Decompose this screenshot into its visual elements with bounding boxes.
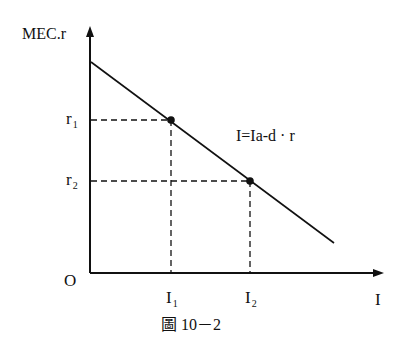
- tick-r2: r2: [66, 171, 78, 188]
- origin-label: O: [64, 272, 76, 289]
- tick-I2: I2: [245, 289, 257, 306]
- tick-I2-base: I: [245, 288, 251, 307]
- tick-I1: I1: [166, 289, 178, 306]
- tick-r1-sub: 1: [73, 119, 78, 130]
- tick-r1-base: r: [66, 109, 72, 128]
- tick-r2-sub: 2: [73, 180, 78, 191]
- x-axis-label: I: [375, 291, 381, 308]
- demand-line: [91, 62, 334, 243]
- point-2: [246, 177, 254, 185]
- figure-caption: 圖 10－2: [161, 317, 221, 333]
- tick-r1: r1: [66, 110, 78, 127]
- tick-I1-base: I: [166, 288, 172, 307]
- diagram-canvas: [0, 0, 407, 358]
- x-axis-arrow-icon: [373, 269, 384, 277]
- y-axis-label: MEC.r: [22, 26, 66, 42]
- equation-label: I=Ia-d · r: [236, 128, 295, 144]
- tick-I1-sub: 1: [173, 298, 178, 309]
- y-axis-arrow-icon: [86, 26, 94, 37]
- point-1: [167, 116, 175, 124]
- guide-lines: [91, 120, 250, 272]
- tick-I2-sub: 2: [252, 298, 257, 309]
- tick-r2-base: r: [66, 170, 72, 189]
